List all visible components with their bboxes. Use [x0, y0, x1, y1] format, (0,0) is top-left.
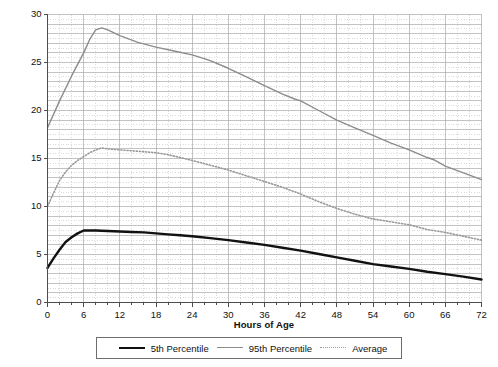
- y-tick-label: 25: [16, 57, 42, 67]
- legend-label: 95th Percentile: [249, 343, 312, 354]
- x-tick-label: 60: [397, 310, 421, 320]
- legend-label: Average: [352, 343, 387, 354]
- legend-label: 5th Percentile: [151, 343, 209, 354]
- x-tick-label: 36: [253, 310, 277, 320]
- legend-swatch-icon: [320, 343, 346, 353]
- x-tick-label: 18: [144, 310, 168, 320]
- y-tick-label: 20: [16, 105, 42, 115]
- x-axis-title: Hours of Age: [47, 319, 481, 331]
- tick-marks: [44, 15, 482, 308]
- legend-swatch-icon: [119, 343, 145, 353]
- x-tick-label: 12: [108, 310, 132, 320]
- y-tick-label: 15: [16, 153, 42, 163]
- x-tick-label: 42: [289, 310, 313, 320]
- y-axis-title: Neutrophils 103/uL: [2, 0, 16, 28]
- x-tick-label: 0: [36, 310, 60, 320]
- chart-legend: 5th Percentile95th PercentileAverage: [96, 337, 402, 359]
- x-tick-label: 30: [216, 310, 240, 320]
- x-tick-label: 66: [433, 310, 457, 320]
- y-tick-label: 10: [16, 201, 42, 211]
- x-tick-label: 48: [325, 310, 349, 320]
- x-tick-label: 24: [180, 310, 204, 320]
- y-tick-label: 30: [16, 9, 42, 19]
- x-tick-label: 6: [72, 310, 96, 320]
- legend-item: 5th Percentile: [111, 338, 209, 358]
- legend-swatch-icon: [217, 343, 243, 353]
- neutrophils-chart: Neutrophils 103/uL 051015202530 06121824…: [0, 0, 498, 367]
- legend-item: 95th Percentile: [209, 338, 312, 358]
- x-tick-label: 54: [361, 310, 385, 320]
- y-tick-label: 5: [16, 249, 42, 259]
- y-tick-label: 0: [16, 297, 42, 307]
- legend-item: Average: [312, 338, 387, 358]
- x-tick-label: 72: [470, 310, 494, 320]
